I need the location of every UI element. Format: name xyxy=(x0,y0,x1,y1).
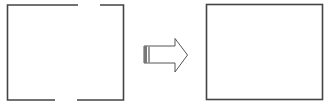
closed-rectangle xyxy=(207,5,323,100)
open-rectangle xyxy=(8,5,124,100)
arrow-icon xyxy=(144,39,188,73)
open-rectangle-top-right-segment xyxy=(77,5,124,100)
diagram-canvas xyxy=(0,0,325,111)
open-rectangle-top-left-segment xyxy=(8,5,79,100)
